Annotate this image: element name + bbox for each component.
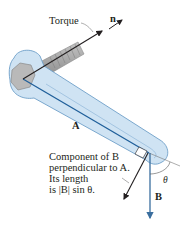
component-label-line4: is |B| sin θ.	[49, 184, 95, 196]
a-label: A	[72, 120, 80, 132]
component-label-line3: Its length	[49, 173, 88, 185]
vector-a	[23, 79, 149, 153]
torque-diagram: Torque n A Component of B perpendicular …	[0, 0, 188, 225]
b-label: B	[155, 191, 162, 203]
wrench	[9, 50, 168, 164]
component-label-line1: Component of B	[49, 151, 119, 163]
n-label: n	[110, 13, 116, 25]
component-label-line2: perpendicular to A.	[49, 162, 130, 174]
torque-label: Torque	[49, 15, 79, 27]
theta-label: θ	[163, 175, 168, 187]
perpendicular-component-vector	[124, 153, 148, 199]
